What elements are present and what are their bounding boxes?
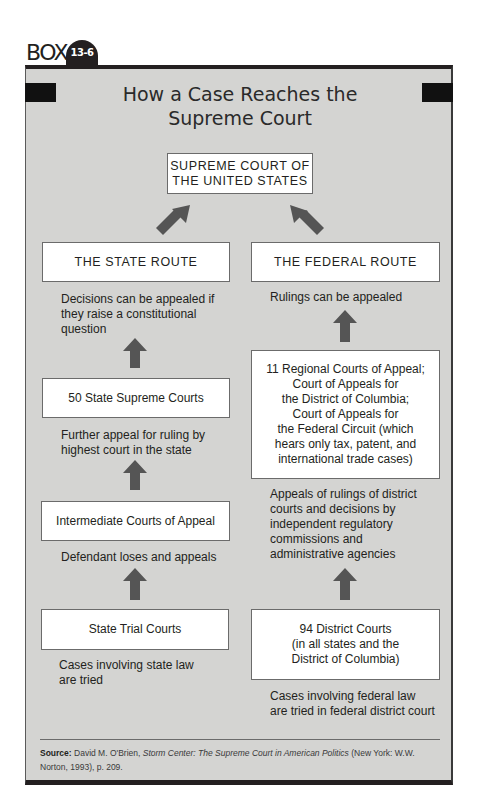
arrow-up-icon bbox=[123, 338, 147, 368]
arrow-federal-to-supreme-icon bbox=[290, 205, 324, 235]
federal-route-note: Rulings can be appealed bbox=[270, 290, 440, 305]
intermediate-courts-note: Defendant loses and appeals bbox=[61, 550, 231, 565]
diagram-title: How a Case Reaches the Supreme Court bbox=[60, 82, 420, 130]
right-decor-block bbox=[422, 83, 453, 102]
federal-route-heading: THE FEDERAL ROUTE bbox=[251, 242, 440, 282]
state-trial-courts-note: Cases involving state law are tried bbox=[59, 658, 229, 688]
arrow-up-icon bbox=[333, 310, 357, 342]
state-trial-courts-node: State Trial Courts bbox=[41, 609, 229, 650]
title-line-1: How a Case Reaches the bbox=[60, 82, 420, 106]
source-label: Source: bbox=[40, 748, 72, 758]
arrow-up-icon bbox=[123, 568, 147, 600]
courts-of-appeal-node: 11 Regional Courts of Appeal; Court of A… bbox=[251, 350, 440, 479]
arrow-up-icon bbox=[123, 460, 147, 490]
supreme-court-node: SUPREME COURT OF THE UNITED STATES bbox=[167, 153, 313, 194]
state-supreme-courts-node: 50 State Supreme Courts bbox=[42, 378, 230, 418]
source-citation: Source: David M. O'Brien, Storm Center: … bbox=[40, 746, 440, 774]
left-decor-block bbox=[25, 83, 56, 102]
state-route-note: Decisions can be appealed if they raise … bbox=[61, 292, 231, 337]
source-divider bbox=[40, 739, 440, 740]
box-number-badge: 13-6 bbox=[66, 40, 98, 66]
state-supreme-courts-note: Further appeal for ruling by highest cou… bbox=[61, 428, 231, 458]
state-route-heading: THE STATE ROUTE bbox=[42, 242, 230, 282]
source-author: David M. O'Brien, bbox=[74, 748, 140, 758]
box-label: BOX bbox=[26, 40, 67, 65]
source-book-title: Storm Center: The Supreme Court in Ameri… bbox=[143, 748, 349, 758]
intermediate-courts-node: Intermediate Courts of Appeal bbox=[41, 501, 230, 541]
courts-of-appeal-note: Appeals of rulings of district courts an… bbox=[270, 487, 445, 562]
arrow-up-icon bbox=[333, 568, 357, 600]
district-courts-note: Cases involving federal law are tried in… bbox=[270, 689, 450, 719]
arrow-state-to-supreme-icon bbox=[156, 205, 190, 235]
title-line-2: Supreme Court bbox=[60, 106, 420, 130]
converge-arrows bbox=[140, 190, 340, 240]
district-courts-node: 94 District Courts (in all states and th… bbox=[251, 609, 440, 680]
